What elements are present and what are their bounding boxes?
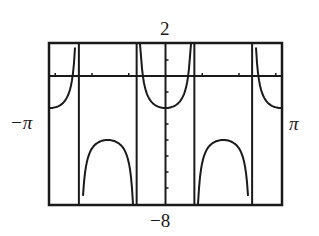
plot-area [49,43,282,205]
graph-plot [0,0,319,236]
